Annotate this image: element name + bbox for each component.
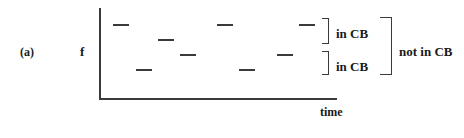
frequency-segment <box>239 69 255 71</box>
bracket-lower-label: in CB <box>336 60 368 73</box>
x-axis <box>99 98 337 100</box>
bracket-upper <box>322 18 329 44</box>
bracket-outer <box>380 17 392 75</box>
y-axis-label: f <box>80 45 84 58</box>
x-axis-label: time <box>320 106 343 119</box>
frequency-segment <box>217 24 233 26</box>
bracket-lower <box>322 51 329 75</box>
bracket-outer-label: not in CB <box>399 45 452 58</box>
panel-label: (a) <box>20 46 34 59</box>
frequency-segment <box>158 39 174 41</box>
frequency-segment <box>136 69 152 71</box>
frequency-segment <box>180 54 196 56</box>
frequency-segment <box>113 24 129 26</box>
frequency-segment <box>277 54 293 56</box>
bracket-upper-label: in CB <box>336 27 368 40</box>
y-axis <box>99 8 101 99</box>
frequency-segment <box>299 24 315 26</box>
